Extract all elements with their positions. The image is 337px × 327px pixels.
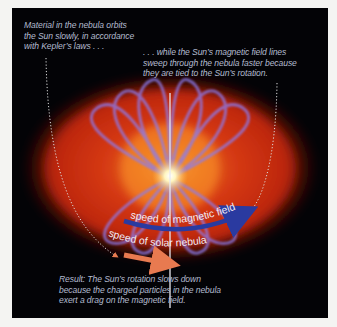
kepler-caption: Material in the nebula orbits the Sun sl… [24, 20, 134, 52]
magnetic-field-caption: . . . while the Sun’s magnetic field lin… [143, 47, 297, 79]
diagram-panel: speed of magnetic field speed of solar n… [12, 8, 328, 318]
result-caption: Result: The Sun’s rotation slows down be… [59, 274, 221, 306]
